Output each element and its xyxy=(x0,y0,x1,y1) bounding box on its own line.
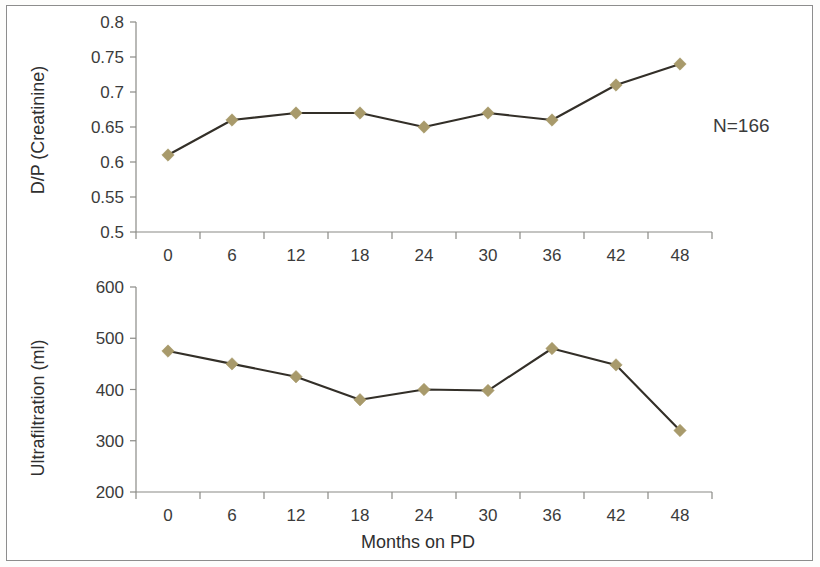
dp-creatinine-markers-group: 0 months: 0.616 months: 0.6612 months: 0… xyxy=(162,58,686,161)
y-tick-label: 0.5 xyxy=(100,223,124,242)
data-point-marker: 12 months: 0.67 xyxy=(290,107,302,119)
y-tick-label: 600 xyxy=(96,280,124,297)
x-tick-label: 0 xyxy=(163,246,172,265)
x-tick-label: 30 xyxy=(479,506,498,525)
x-tick-label: 42 xyxy=(607,246,626,265)
data-point-marker: 18 months: 0.67 xyxy=(354,107,366,119)
y-tick-label: 200 xyxy=(96,483,124,502)
data-point-marker: 18 months: 380 xyxy=(354,394,366,406)
figure-root: 0.80.750.70.650.60.550.50612182430364248… xyxy=(0,0,820,567)
ultrafiltration-markers-group: 0 months: 4756 months: 45012 months: 425… xyxy=(162,342,686,436)
x-tick-label: 0 xyxy=(163,506,172,525)
y-tick-label: 0.8 xyxy=(100,13,124,32)
x-tick-label: 36 xyxy=(543,246,562,265)
x-tick-label: 6 xyxy=(227,246,236,265)
data-point-marker: 6 months: 0.66 xyxy=(226,114,238,126)
top-y-axis-title: D/P (Creatinine) xyxy=(28,66,48,195)
data-point-marker: 30 months: 398 xyxy=(482,384,494,396)
sample-size-annotation: N=166 xyxy=(713,115,770,136)
x-tick-label: 12 xyxy=(287,506,306,525)
y-tick-label: 300 xyxy=(96,432,124,451)
y-tick-label: 0.65 xyxy=(91,118,124,137)
data-point-marker: 36 months: 480 xyxy=(546,342,558,354)
data-point-marker: 36 months: 0.66 xyxy=(546,114,558,126)
x-tick-label: 48 xyxy=(671,246,690,265)
x-tick-label: 48 xyxy=(671,506,690,525)
data-point-marker: 24 months: 0.65 xyxy=(418,121,430,133)
x-tick-label: 12 xyxy=(287,246,306,265)
x-tick-label: 6 xyxy=(227,506,236,525)
y-tick-label: 400 xyxy=(96,381,124,400)
data-point-marker: 0 months: 475 xyxy=(162,345,174,357)
y-tick-label: 0.55 xyxy=(91,188,124,207)
y-tick-label: 500 xyxy=(96,329,124,348)
x-tick-label: 42 xyxy=(607,506,626,525)
data-point-marker: 24 months: 400 xyxy=(418,383,430,395)
data-point-marker: 6 months: 450 xyxy=(226,358,238,370)
x-tick-label: 18 xyxy=(351,506,370,525)
x-axis-title: Months on PD xyxy=(361,532,475,552)
x-tick-label: 36 xyxy=(543,506,562,525)
y-tick-label: 0.7 xyxy=(100,83,124,102)
top-tick-labels-group: 0.80.750.70.650.60.550.50612182430364248 xyxy=(91,13,690,265)
x-tick-label: 24 xyxy=(415,506,434,525)
x-tick-label: 24 xyxy=(415,246,434,265)
bottom-y-axis-title: Ultrafiltration (ml) xyxy=(28,339,48,476)
bottom-tick-labels-group: 6005004003002000612182430364248 xyxy=(96,280,690,525)
chart-ultrafiltration: 6005004003002000612182430364248 0 months… xyxy=(0,280,820,567)
data-point-marker: 12 months: 425 xyxy=(290,370,302,382)
data-point-marker: 48 months: 0.74 xyxy=(674,58,686,70)
data-point-marker: 42 months: 0.71 xyxy=(610,79,622,91)
x-tick-label: 18 xyxy=(351,246,370,265)
chart-dp-creatinine: 0.80.750.70.650.60.550.50612182430364248… xyxy=(0,0,820,283)
x-tick-label: 30 xyxy=(479,246,498,265)
y-tick-label: 0.75 xyxy=(91,48,124,67)
dp-creatinine-series-line xyxy=(168,64,680,155)
data-point-marker: 30 months: 0.67 xyxy=(482,107,494,119)
data-point-marker: 0 months: 0.61 xyxy=(162,149,174,161)
y-tick-label: 0.6 xyxy=(100,153,124,172)
